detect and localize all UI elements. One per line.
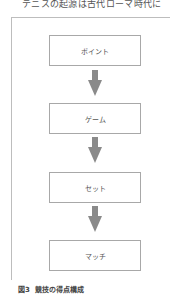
- figure-title: 競技の得点構成: [35, 286, 84, 294]
- box-set: セット: [49, 172, 141, 203]
- arrow-down-icon: [88, 206, 102, 232]
- figure-caption: 図3競技の得点構成: [18, 284, 89, 294]
- box-match: マッチ: [49, 240, 141, 271]
- box-game: ゲーム: [49, 103, 141, 134]
- figure-number: 図3: [18, 286, 30, 294]
- arrow-down-icon: [88, 137, 102, 163]
- arrow-down-icon: [88, 70, 102, 96]
- body-text-fragment: テニスの起源は古代ローマ時代に: [22, 0, 162, 9]
- box-point: ポイント: [49, 35, 141, 66]
